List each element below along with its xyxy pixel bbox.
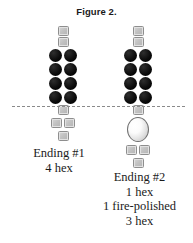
round-bead-icon xyxy=(124,91,137,104)
round-bead-row xyxy=(49,91,77,104)
round-bead-icon xyxy=(124,77,137,90)
hex-bead-icon xyxy=(58,37,69,47)
round-bead-icon xyxy=(49,49,62,62)
hex-bead-icon xyxy=(64,118,75,128)
round-bead-icon xyxy=(139,77,152,90)
hex-bead-icon xyxy=(133,158,144,168)
hex-row xyxy=(58,37,69,47)
hex-row xyxy=(126,145,150,155)
ending-2-label-line-4: 3 hex xyxy=(86,214,193,229)
round-bead-icon xyxy=(64,63,77,76)
round-bead-icon xyxy=(124,63,137,76)
round-bead-row xyxy=(49,49,77,62)
round-bead-icon xyxy=(139,49,152,62)
ending-1-label-line-1: Ending #1 xyxy=(6,146,112,161)
round-bead-icon xyxy=(139,91,152,104)
ending-2-label-line-1: Ending #2 xyxy=(86,170,193,185)
round-bead-icon xyxy=(64,49,77,62)
ending-1-above-line-stack xyxy=(28,26,98,104)
fire-polished-row xyxy=(127,117,149,142)
round-bead-row xyxy=(49,63,77,76)
hex-row xyxy=(51,118,75,128)
round-bead-icon xyxy=(49,77,62,90)
hex-bead-icon xyxy=(133,26,144,36)
round-bead-row xyxy=(124,63,152,76)
figure-2-diagram: Figure 2. xyxy=(0,0,193,243)
hex-row xyxy=(133,158,144,168)
ending-2-below-line-stack xyxy=(103,105,173,168)
hex-row xyxy=(58,131,69,141)
ending-1-below-line-stack xyxy=(28,105,98,141)
round-bead-row xyxy=(124,49,152,62)
round-bead-icon xyxy=(124,49,137,62)
round-bead-row xyxy=(49,77,77,90)
hex-bead-icon xyxy=(133,37,144,47)
figure-title: Figure 2. xyxy=(0,6,193,17)
hex-bead-icon xyxy=(139,145,150,155)
hex-row xyxy=(58,26,69,36)
round-bead-icon xyxy=(49,63,62,76)
fire-polished-bead-icon xyxy=(127,117,149,142)
round-bead-icon xyxy=(139,63,152,76)
round-bead-icon xyxy=(64,77,77,90)
round-bead-row xyxy=(124,77,152,90)
round-bead-row xyxy=(124,91,152,104)
round-bead-icon xyxy=(49,91,62,104)
hex-row xyxy=(133,26,144,36)
hex-bead-icon xyxy=(58,26,69,36)
round-bead-icon xyxy=(64,91,77,104)
hex-bead-icon xyxy=(51,118,62,128)
dashed-reference-line xyxy=(12,106,185,107)
ending-2-label-line-3: 1 fire-polished xyxy=(86,199,193,214)
ending-2-above-line-stack xyxy=(103,26,173,104)
hex-bead-icon xyxy=(58,131,69,141)
ending-2-label: Ending #2 1 hex 1 fire-polished 3 hex xyxy=(86,170,193,228)
hex-bead-icon xyxy=(126,145,137,155)
ending-2-label-line-2: 1 hex xyxy=(86,185,193,200)
hex-row xyxy=(133,37,144,47)
